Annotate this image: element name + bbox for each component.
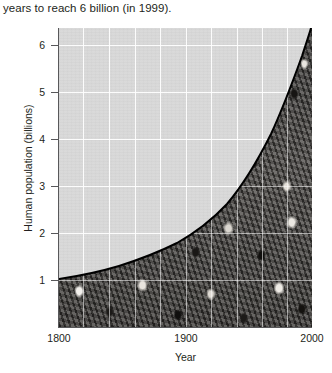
vertical-gridline (287, 28, 288, 327)
gridlines (59, 28, 312, 327)
y-axis-tick (51, 139, 59, 140)
horizontal-gridline (59, 139, 312, 140)
population-growth-chart: 6 5 4 3 2 1 1800 1900 2000 Human populat… (0, 22, 332, 373)
vertical-gridline (186, 28, 187, 327)
y-axis-title: Human population (billions) (22, 78, 34, 258)
gridlines-over-photo (59, 28, 312, 327)
vertical-gridline (83, 28, 84, 327)
horizontal-gridline (59, 45, 312, 46)
y-axis-tick (51, 280, 59, 281)
vertical-gridline (160, 28, 161, 327)
horizontal-gridline (59, 233, 312, 234)
y-axis-line (58, 28, 59, 328)
vertical-gridline (287, 28, 288, 327)
vertical-gridline (186, 28, 187, 327)
x-axis-tick-label: 1900 (156, 332, 216, 344)
vertical-gridline (237, 28, 238, 327)
caption-text: years to reach 6 billion (in 1999). (3, 1, 172, 16)
vertical-gridline (237, 28, 238, 327)
y-axis-tick (51, 233, 59, 234)
vertical-gridline (211, 28, 212, 327)
vertical-gridline (135, 28, 136, 327)
y-axis-tick-label: 6 (5, 39, 45, 51)
horizontal-gridline (59, 280, 312, 281)
vertical-gridline (83, 28, 84, 327)
population-area-fill (59, 28, 312, 327)
vertical-gridline (109, 28, 110, 327)
vertical-gridline (262, 28, 263, 327)
x-axis-line (58, 327, 312, 328)
crowd-photograph (59, 28, 312, 327)
vertical-gridline (109, 28, 110, 327)
vertical-gridline (160, 28, 161, 327)
plot-area (59, 28, 312, 327)
horizontal-gridline (59, 233, 312, 234)
horizontal-gridline (59, 92, 312, 93)
y-axis-tick (51, 45, 59, 46)
x-axis-tick-label: 2000 (282, 332, 332, 344)
population-curve (59, 28, 311, 279)
x-axis-tick-label: 1800 (29, 332, 89, 344)
area-clip-svg (59, 28, 312, 327)
x-axis-title: Year (59, 351, 312, 363)
y-axis-tick (51, 186, 59, 187)
y-axis-tick (51, 92, 59, 93)
vertical-gridline (211, 28, 212, 327)
y-axis-tick-label: 1 (5, 274, 45, 286)
plot-paper-grain (59, 28, 312, 327)
horizontal-gridline (59, 186, 312, 187)
horizontal-gridline (59, 280, 312, 281)
horizontal-gridline (59, 186, 312, 187)
vertical-gridline (262, 28, 263, 327)
vertical-gridline (135, 28, 136, 327)
